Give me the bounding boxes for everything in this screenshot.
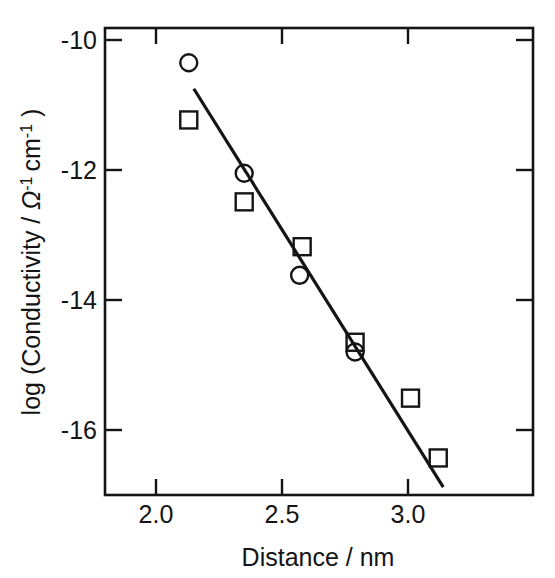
omega-symbol: Ω bbox=[17, 191, 45, 210]
omega-exponent: -1 bbox=[18, 176, 35, 190]
data-point-circle bbox=[180, 54, 197, 71]
data-point-square bbox=[430, 449, 447, 466]
y-tick-label: -12 bbox=[61, 156, 97, 184]
data-point-square bbox=[402, 390, 419, 407]
x-axis-label: Distance / nm bbox=[242, 543, 395, 571]
cm-exponent: -1 bbox=[18, 124, 35, 138]
x-tick-label: 2.5 bbox=[265, 500, 300, 528]
fit-line-group bbox=[194, 89, 443, 487]
data-markers-group bbox=[180, 54, 446, 466]
y-tick-label: -10 bbox=[61, 26, 97, 54]
y-tick-label: -16 bbox=[61, 416, 97, 444]
data-point-circle bbox=[291, 267, 308, 284]
y-axis-label-prefix: log (Conductivity / bbox=[17, 210, 45, 416]
conductivity-vs-distance-chart: -10 -12 -14 -16 2.0 2.5 3.0 Distance / n… bbox=[0, 0, 555, 578]
svg-text:log (Conductivity / Ω-1cm-1 ): log (Conductivity / Ω-1cm-1 ) bbox=[17, 109, 45, 416]
x-tick-label: 2.0 bbox=[139, 500, 174, 528]
plot-frame-box bbox=[105, 28, 533, 495]
linear-fit-line bbox=[194, 89, 443, 487]
x-axis-tick-labels: 2.0 2.5 3.0 bbox=[139, 500, 426, 528]
plot-frame bbox=[105, 28, 533, 495]
y-axis-label: log (Conductivity / Ω-1cm-1 ) bbox=[17, 109, 45, 416]
y-tick-label: -14 bbox=[61, 286, 97, 314]
x-axis-ticks bbox=[156, 28, 408, 495]
cm-unit: cm bbox=[17, 138, 45, 171]
y-axis-label-suffix: ) bbox=[17, 109, 45, 124]
y-axis-tick-labels: -10 -12 -14 -16 bbox=[61, 26, 97, 444]
data-point-square bbox=[236, 193, 253, 210]
y-axis-ticks bbox=[105, 40, 533, 430]
x-tick-label: 3.0 bbox=[391, 500, 426, 528]
data-point-square bbox=[180, 111, 197, 128]
